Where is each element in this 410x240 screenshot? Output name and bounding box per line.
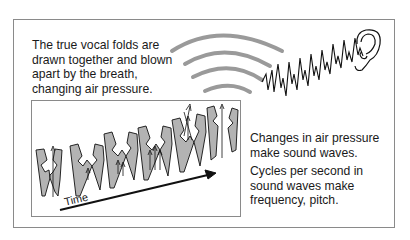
vocal-fold-shapes	[36, 106, 238, 196]
frequency-caption: Cycles per second in sound waves make fr…	[250, 164, 400, 208]
caption-line: Cycles per second in	[250, 164, 400, 179]
caption-line: make sound waves.	[250, 146, 400, 161]
caption-line: Changes in air pressure	[250, 131, 400, 146]
caption-line: sound waves make	[250, 179, 400, 194]
caption-line: frequency, pitch.	[250, 193, 400, 208]
air-pressure-caption: Changes in air pressure make sound waves…	[250, 131, 400, 160]
